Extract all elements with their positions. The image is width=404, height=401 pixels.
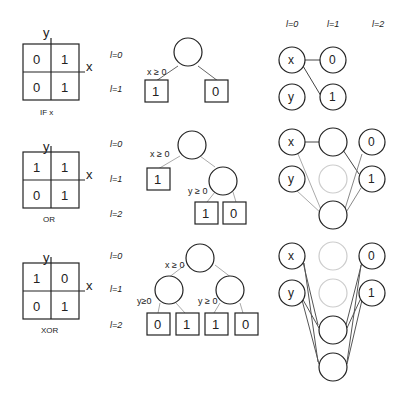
level-label: l=1: [110, 84, 122, 94]
network-level-label: l=2: [372, 19, 384, 29]
axis-x-label: x: [86, 278, 93, 293]
level-label: l=0: [110, 139, 122, 149]
level-label: l=0: [110, 50, 122, 60]
cell-top-left: 1: [33, 160, 40, 175]
tree-internal-node: [209, 167, 237, 195]
node-label: 0: [368, 135, 375, 149]
cell-bottom-left: 0: [33, 80, 40, 95]
level-label: l=0: [110, 251, 122, 261]
cell-bottom-right: 1: [61, 299, 68, 314]
axis-y-label: y: [43, 25, 50, 40]
cell-top-left: 0: [33, 52, 40, 67]
leaf-value: 1: [183, 317, 190, 332]
network-level-label: l=0: [286, 19, 298, 29]
cell-bottom-right: 1: [61, 188, 68, 203]
panel-if-x: y x 0 1 0 1 IF x l=0 l=1 x ≥ 0 1 0 l=0 l…: [23, 19, 384, 117]
network-edges: [302, 262, 362, 364]
hidden-node: [319, 128, 347, 156]
tree-condition: y≥0: [137, 296, 151, 306]
axis-y-label: y: [43, 250, 50, 265]
hidden-node-inactive: [319, 165, 347, 193]
tree-internal-node: [155, 276, 183, 304]
tree-condition: y ≥ 0: [188, 186, 207, 196]
figure-canvas: y x 0 1 0 1 IF x l=0 l=1 x ≥ 0 1 0 l=0 l…: [0, 0, 404, 401]
node-label: 1: [368, 172, 375, 186]
leaf-value: 1: [202, 206, 209, 221]
node-label: 1: [329, 90, 336, 104]
cell-top-right: 1: [61, 160, 68, 175]
node-label: 0: [329, 53, 336, 67]
tree-condition: x ≥ 0: [165, 260, 184, 270]
cell-bottom-left: 0: [33, 299, 40, 314]
node-label: y: [288, 90, 294, 104]
node-label: x: [288, 249, 294, 263]
node-label: x: [288, 53, 294, 67]
grid-caption: IF x: [40, 108, 53, 117]
node-label: y: [288, 172, 294, 186]
tree-condition: x ≥ 0: [150, 149, 169, 159]
leaf-value: 0: [154, 317, 161, 332]
leaf-value: 0: [212, 84, 219, 99]
node-label: x: [288, 135, 294, 149]
hidden-node-inactive: [319, 279, 347, 307]
tree-root-node: [174, 38, 202, 66]
leaf-value: 1: [152, 84, 159, 99]
hidden-node-inactive: [319, 242, 347, 270]
level-label: l=2: [110, 320, 122, 330]
cell-bottom-right: 1: [61, 80, 68, 95]
axis-x-label: x: [86, 59, 93, 74]
axis-y-label: y: [43, 139, 50, 154]
node-label: 0: [368, 249, 375, 263]
tree-root-node: [178, 131, 206, 159]
tree-condition: x ≥ 0: [147, 67, 166, 77]
node-label: 1: [368, 286, 375, 300]
level-label: l=2: [110, 209, 122, 219]
grid-caption: OR: [43, 215, 55, 224]
level-label: l=1: [110, 284, 122, 294]
level-label: l=1: [110, 174, 122, 184]
grid-caption: XOR: [41, 326, 59, 335]
leaf-value: 1: [154, 172, 161, 187]
leaf-value: 1: [212, 317, 219, 332]
panel-or: y x 1 1 0 1 OR l=0 l=1 l=2 x ≥ 0 y ≥ 0 1…: [23, 128, 385, 229]
tree-condition: y ≥ 0: [198, 296, 217, 306]
cell-top-right: 0: [61, 271, 68, 286]
axis-x-label: x: [86, 167, 93, 182]
panel-xor: y x 1 0 0 1 XOR l=0 l=1 l=2 x ≥ 0 y≥0 y …: [23, 242, 385, 381]
node-label: y: [288, 286, 294, 300]
leaf-value: 0: [242, 317, 249, 332]
leaf-value: 0: [230, 206, 237, 221]
tree-root-node: [186, 244, 214, 272]
cell-top-right: 1: [61, 52, 68, 67]
network-edges: [303, 60, 321, 96]
cell-bottom-left: 0: [33, 188, 40, 203]
hidden-node: [319, 201, 347, 229]
network-level-label: l=1: [327, 19, 339, 29]
hidden-node: [319, 316, 347, 344]
cell-top-left: 1: [33, 271, 40, 286]
hidden-node: [319, 353, 347, 381]
tree-internal-node: [216, 276, 244, 304]
